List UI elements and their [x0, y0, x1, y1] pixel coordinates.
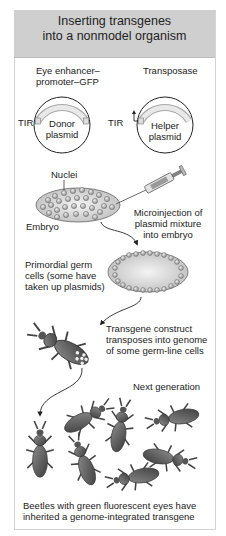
left-tir-label: TIR: [18, 117, 33, 128]
donor-insert-label: Eye enhancer– promoter–GFP: [36, 65, 106, 87]
embryo-label: Embryo: [26, 221, 59, 232]
transposition-label: Transgene construct transposes into geno…: [106, 323, 207, 356]
syringe-icon: [116, 165, 186, 204]
nuclei-label: Nuclei: [51, 169, 77, 180]
arrow-icon: [40, 368, 82, 415]
next-generation-label: Next generation: [133, 381, 200, 392]
caption: Beetles with green fluorescent eyes have…: [23, 500, 196, 522]
helper-plasmid-label: Helper plasmid: [145, 120, 185, 142]
germ-cell-embryo: [108, 251, 188, 293]
adult-beetle: [22, 315, 95, 376]
transposase-label: Transposase: [143, 65, 198, 76]
donor-plasmid-label: Donor plasmid: [42, 118, 82, 140]
arrow-icon: [101, 297, 141, 324]
right-tir-label: TIR: [108, 117, 123, 128]
primordial-germ-cells-label: Primordial germ cells (some have taken u…: [25, 259, 105, 292]
microinjection-label: Microinjection of plasmid mixture into e…: [128, 207, 208, 240]
embryo-with-nuclei: [36, 180, 120, 222]
next-generation-beetles: [26, 392, 201, 495]
